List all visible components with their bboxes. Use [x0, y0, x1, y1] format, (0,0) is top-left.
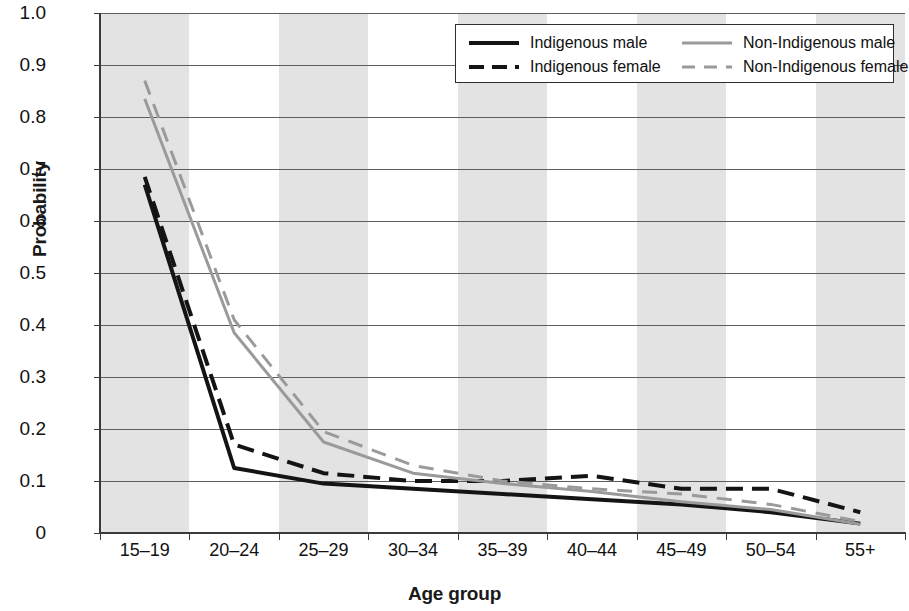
x-tick-mark [189, 533, 190, 540]
x-tick-label: 50–54 [746, 540, 796, 561]
y-tick-label: 0.7 [0, 158, 46, 180]
y-tick-label: 0.9 [0, 54, 46, 76]
y-tick-label: 0.3 [0, 366, 46, 388]
legend-label-non-indigenous-male: Non-Indigenous male [743, 34, 895, 52]
legend-label-non-indigenous-female: Non-Indigenous female [743, 58, 908, 76]
x-tick-mark [100, 533, 101, 540]
legend-item-1: Indigenous female [468, 55, 661, 79]
x-tick-mark [368, 533, 369, 540]
legend-swatch-non-indigenous-female [681, 60, 733, 74]
x-tick-label: 40–44 [567, 540, 617, 561]
x-tick-label: 35–39 [477, 540, 527, 561]
x-tick-mark [905, 533, 906, 540]
y-tick-label: 0.5 [0, 262, 46, 284]
y-tick-label: 0.8 [0, 106, 46, 128]
x-tick-mark [279, 533, 280, 540]
y-tick-label: 0 [0, 522, 46, 544]
x-tick-mark [637, 533, 638, 540]
legend-swatch-non-indigenous-male [681, 36, 733, 50]
x-tick-label: 20–24 [209, 540, 259, 561]
legend-item-0: Indigenous male [468, 31, 647, 55]
x-tick-label: 55+ [845, 540, 876, 561]
series-lines [100, 13, 905, 533]
y-tick-label: 0.4 [0, 314, 46, 336]
x-tick-mark [816, 533, 817, 540]
legend-label-indigenous-male: Indigenous male [530, 34, 647, 52]
chart-legend: Indigenous male Indigenous female Non-In… [455, 24, 894, 83]
x-tick-label: 45–49 [656, 540, 706, 561]
legend-item-2: Non-Indigenous male [681, 31, 895, 55]
x-tick-label: 25–29 [299, 540, 349, 561]
plot-area [100, 13, 905, 533]
legend-label-indigenous-female: Indigenous female [530, 58, 661, 76]
y-tick-label: 0.1 [0, 470, 46, 492]
x-tick-mark [726, 533, 727, 540]
y-tick-label: 1.0 [0, 2, 46, 24]
y-tick-label: 0.6 [0, 210, 46, 232]
x-tick-label: 15–19 [120, 540, 170, 561]
legend-swatch-indigenous-male [468, 36, 520, 50]
series-line [145, 99, 861, 524]
x-tick-mark [547, 533, 548, 540]
legend-item-3: Non-Indigenous female [681, 55, 908, 79]
x-tick-mark [458, 533, 459, 540]
x-axis-title: Age group [0, 583, 909, 605]
legend-swatch-indigenous-female [468, 60, 520, 74]
y-tick-label: 0.2 [0, 418, 46, 440]
x-tick-label: 30–34 [388, 540, 438, 561]
chart-figure: Probability Age group 00.10.20.30.40.50.… [0, 0, 909, 611]
series-line [145, 81, 861, 522]
